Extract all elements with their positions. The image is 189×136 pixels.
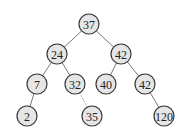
node-label: 7 — [34, 78, 40, 92]
tree-node-2: 2 — [17, 106, 37, 126]
edge-42-to-42 — [127, 62, 139, 76]
edge-24-to-32 — [62, 63, 70, 76]
edge-42-to-120 — [150, 93, 159, 108]
tree-edges — [30, 31, 159, 108]
node-label: 37 — [83, 18, 95, 32]
tree-node-35: 35 — [82, 106, 102, 126]
tree-node-32: 32 — [65, 74, 85, 94]
node-label: 32 — [69, 78, 81, 92]
edge-32-to-35 — [80, 93, 88, 107]
tree-nodes: 3724427324042235120 — [17, 14, 174, 126]
node-label: 42 — [139, 78, 151, 92]
edge-37-to-24 — [64, 31, 81, 47]
binary-tree-diagram: 3724427324042235120 — [0, 0, 189, 136]
tree-node-42: 42 — [111, 44, 131, 64]
node-label: 40 — [100, 78, 112, 92]
tree-node-42: 42 — [135, 74, 155, 94]
edge-42-to-40 — [110, 63, 116, 75]
tree-node-24: 24 — [47, 44, 67, 64]
edge-24-to-7 — [43, 62, 52, 75]
tree-node-120: 120 — [154, 106, 174, 126]
tree-node-40: 40 — [96, 74, 116, 94]
node-label: 42 — [115, 48, 127, 62]
tree-node-37: 37 — [79, 14, 99, 34]
node-label: 24 — [51, 48, 63, 62]
edge-7-to-2 — [30, 94, 34, 107]
node-label: 35 — [86, 110, 98, 124]
node-label: 2 — [24, 110, 30, 124]
node-label: 120 — [155, 110, 173, 124]
tree-node-7: 7 — [27, 74, 47, 94]
edge-37-to-42 — [96, 31, 113, 47]
